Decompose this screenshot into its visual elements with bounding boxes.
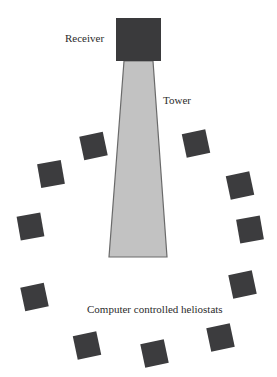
- heliostat-mirror: [182, 129, 210, 157]
- heliostats-label: Computer controlled heliostats: [87, 304, 223, 315]
- heliostat-mirror: [79, 132, 107, 160]
- diagram-canvas: [0, 0, 277, 377]
- heliostat-mirror: [37, 160, 65, 188]
- solar-tower-diagram: Receiver Tower Computer controlled helio…: [0, 0, 277, 377]
- heliostat-mirror: [73, 331, 101, 359]
- heliostat-mirror: [206, 323, 234, 351]
- tower-label: Tower: [163, 95, 191, 106]
- receiver-label: Receiver: [65, 33, 104, 44]
- heliostat-mirror: [20, 283, 48, 311]
- heliostat-mirror: [226, 171, 254, 199]
- tower-shape: [109, 61, 167, 257]
- heliostat-mirror: [236, 216, 264, 244]
- receiver-shape: [116, 18, 161, 61]
- heliostat-mirror: [228, 270, 256, 298]
- heliostat-mirror: [140, 339, 168, 367]
- heliostat-mirror: [17, 213, 45, 241]
